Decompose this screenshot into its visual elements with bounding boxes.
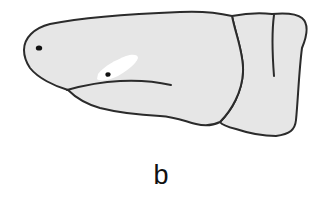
panel-label: b [0, 160, 322, 190]
anterior-segment-shape [24, 12, 243, 126]
spiracle-dot [105, 72, 110, 77]
figure-panel-b: b [0, 0, 322, 198]
eye-dot [36, 45, 42, 50]
